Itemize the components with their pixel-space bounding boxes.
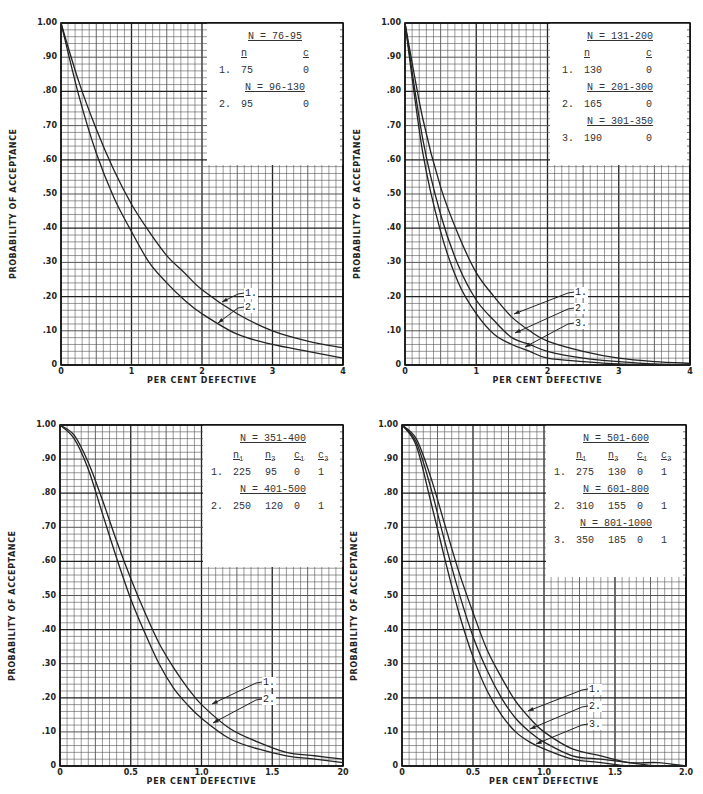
y-tick-label: .30 [372,659,398,668]
legend-group-header: N = 801-1000 [546,518,686,529]
legend-column-header: n2 [608,450,618,463]
y-tick-label: .20 [372,693,398,702]
legend-row-value: 1 [661,535,667,546]
legend-row-value: 155 [608,501,626,512]
legend-row-value: 0 [637,535,643,546]
legend-row-value: 130 [608,467,626,478]
callout-label-2: 2. [588,701,602,712]
y-tick-label: .10 [372,727,398,736]
y-tick-label: .60 [372,556,398,565]
legend-group-header: N = 501-600 [546,433,686,444]
legend-row-label: 2. [554,501,566,512]
legend-row-value: 350 [576,535,594,546]
x-tick-label: 0.5 [461,768,485,777]
y-tick-label: .80 [372,488,398,497]
legend-row-label: 3. [554,535,566,546]
y-tick-label: 1.00 [372,420,398,429]
arrowhead-icon [530,725,536,729]
y-tick-label: .50 [372,591,398,600]
legend-row-value: 0 [637,501,643,512]
y-tick-label: .70 [372,522,398,531]
y-axis-label: PROBABILITY OF ACCEPTANCE [350,530,359,681]
legend-row-value: 1 [661,501,667,512]
x-tick-label: 1.5 [603,768,627,777]
legend-group-header: N = 601-800 [546,484,686,495]
x-tick-label: 1.0 [532,768,556,777]
legend-row-value: 310 [576,501,594,512]
x-tick-label: 0 [390,768,414,777]
y-tick-label: .40 [372,625,398,634]
callout-label-1: 1. [588,684,602,695]
legend-row-value: 0 [637,467,643,478]
x-axis-label: PER CENT DEFECTIVE [402,777,686,786]
y-tick-label: .90 [372,454,398,463]
legend-row-value: 185 [608,535,626,546]
legend-column-header: c2 [661,450,671,463]
legend-row-value: 275 [576,467,594,478]
legend-br: N = 501-600n1n2c1c21.27513001N = 601-800… [546,425,686,577]
legend-column-header: n1 [576,450,586,463]
legend-row-value: 1 [661,467,667,478]
legend-column-header: c1 [637,450,647,463]
x-tick-label: 2.0 [674,768,698,777]
legend-row-label: 1. [554,467,566,478]
callout-label-3: 3. [588,719,602,730]
arrowhead-icon [528,707,534,711]
